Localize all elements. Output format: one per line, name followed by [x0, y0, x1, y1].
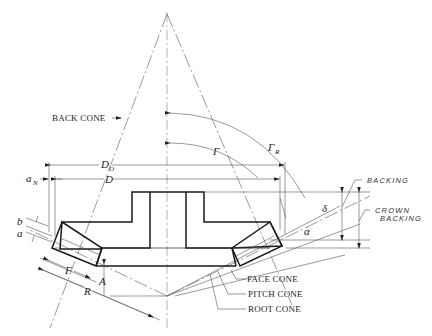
addendum-dedendum-dims [26, 216, 52, 242]
root-cone-label: ROOT CONE [248, 304, 301, 314]
backing-label: BACKING [367, 176, 409, 185]
dedendum-symbol: b [17, 215, 23, 227]
face-width-symbol: F [64, 264, 72, 276]
face-angle-subscript: R [274, 148, 280, 156]
pitch-diameter-symbol: D [104, 173, 113, 185]
cone-distance-symbol: R [83, 285, 91, 297]
pitch-angle-symbol: Γ [212, 145, 220, 157]
face-angle-symbol: Γ [267, 141, 275, 153]
crown-backing-label-2: BACKING [380, 214, 422, 223]
addendum-symbol: a [17, 227, 23, 239]
backing-dimensions [342, 180, 370, 248]
back-cone-label: BACK CONE [52, 113, 106, 123]
face-cone-label: FACE CONE [247, 274, 298, 284]
apex-distance-symbol: A [98, 275, 106, 287]
outside-diameter-subscript: O [109, 165, 114, 173]
bevel-gear-diagram: BACK CONE FACE CONE PITCH CONE ROOT CONE… [0, 0, 432, 336]
addendum-n-symbol: a [26, 172, 32, 184]
diameter-dimensions [40, 162, 285, 236]
dedendum-angle-symbol: δ [322, 202, 328, 214]
addendum-n-subscript: N [32, 179, 38, 187]
outside-diameter-symbol: D [100, 158, 109, 170]
addendum-angle-symbol: α [304, 225, 310, 237]
pitch-cone-label: PITCH CONE [248, 289, 303, 299]
cone-lines [30, 196, 370, 296]
